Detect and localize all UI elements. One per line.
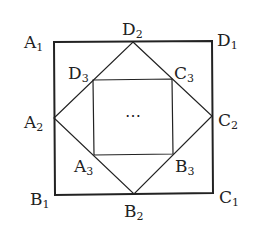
nested-squares-diagram: ⋯ A1D1D2D3C3A2C2A3B3B1C1B2 [0, 0, 254, 232]
ellipsis-continuation: ⋯ [125, 106, 141, 125]
